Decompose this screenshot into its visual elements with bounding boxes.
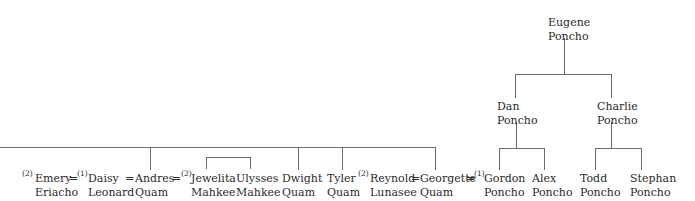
charlie-drop-line xyxy=(611,74,612,98)
person-eugene-poncho: Eugene Poncho xyxy=(548,16,590,44)
person-reynold-lunasee: Reynold Lunasee xyxy=(370,172,417,200)
marriage-symbol: = xyxy=(125,172,134,186)
gordon-drop-line xyxy=(499,148,500,170)
jewelita-bracket-line xyxy=(206,157,207,169)
dwight-drop-line xyxy=(298,147,299,170)
last-name: Poncho xyxy=(484,186,525,200)
stephan-drop-line xyxy=(641,148,642,170)
first-name: Dan xyxy=(497,100,538,114)
last-name: Mahkee xyxy=(191,186,236,200)
last-name: Quam xyxy=(135,186,174,200)
marker-reynold: (2) xyxy=(358,170,369,178)
first-name: Eugene xyxy=(548,16,590,30)
last-name: Mahkee xyxy=(236,186,281,200)
first-name: Todd xyxy=(580,172,621,186)
person-dwight-quam: Dwight Quam xyxy=(282,172,322,200)
person-alex-poncho: Alex Poncho xyxy=(532,172,573,200)
first-name: Jewelita xyxy=(191,172,236,186)
mahkee-bracket-bar xyxy=(206,157,250,158)
eugene-children-bar xyxy=(515,74,612,75)
last-name: Eriacho xyxy=(35,186,78,200)
marriage-symbol: = xyxy=(411,172,420,186)
first-name: Ulysses xyxy=(236,172,281,186)
person-andres-quam: Andres Quam xyxy=(135,172,174,200)
todd-drop-line xyxy=(595,148,596,170)
person-dan-poncho: Dan Poncho xyxy=(497,100,538,128)
last-name: Poncho xyxy=(630,186,676,200)
first-name: Alex xyxy=(532,172,573,186)
person-todd-poncho: Todd Poncho xyxy=(580,172,621,200)
quam-siblings-bar xyxy=(0,147,436,148)
first-name: Tyler xyxy=(327,172,360,186)
dan-drop-line xyxy=(515,74,516,98)
tyler-drop-line xyxy=(342,147,343,170)
marker-daisy: (1) xyxy=(77,170,88,178)
first-name: Gordon xyxy=(484,172,525,186)
person-stephan-poncho: Stephan Poncho xyxy=(630,172,676,200)
first-name: Charlie xyxy=(597,100,638,114)
last-name: Leonard xyxy=(88,186,134,200)
georgette-drop-line xyxy=(435,147,436,170)
first-name: Stephan xyxy=(630,172,676,186)
marriage-symbol: = xyxy=(172,172,181,186)
last-name: Poncho xyxy=(548,30,590,44)
dan-children-bar xyxy=(499,148,544,149)
andres-drop-line xyxy=(150,147,151,170)
first-name: Dwight xyxy=(282,172,322,186)
ulysses-bracket-line xyxy=(250,157,251,169)
last-name: Poncho xyxy=(597,114,638,128)
last-name: Poncho xyxy=(580,186,621,200)
person-gordon-poncho: Gordon Poncho xyxy=(484,172,525,200)
marker-emery: (2) xyxy=(22,170,33,178)
person-ulysses-mahkee: Ulysses Mahkee xyxy=(236,172,281,200)
first-name: Reynold xyxy=(370,172,417,186)
person-jewelita-mahkee: Jewelita Mahkee xyxy=(191,172,236,200)
last-name: Quam xyxy=(327,186,360,200)
first-name: Andres xyxy=(135,172,174,186)
charlie-children-bar xyxy=(595,148,641,149)
last-name: Poncho xyxy=(532,186,573,200)
person-tyler-quam: Tyler Quam xyxy=(327,172,360,200)
last-name: Quam xyxy=(282,186,322,200)
alex-drop-line xyxy=(544,148,545,170)
last-name: Poncho xyxy=(497,114,538,128)
last-name: Lunasee xyxy=(370,186,417,200)
last-name: Quam xyxy=(420,186,476,200)
person-charlie-poncho: Charlie Poncho xyxy=(597,100,638,128)
